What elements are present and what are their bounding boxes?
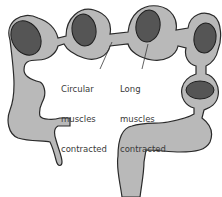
diagram-canvas: Circular muscles contracted Long muscles…	[0, 0, 222, 197]
label-line: contracted	[61, 144, 107, 154]
label-circular-muscles: Circular muscles contracted	[61, 64, 107, 174]
label-line: muscles	[61, 114, 107, 124]
label-line: Long	[120, 84, 166, 94]
label-long-muscles: Long muscles contracted	[120, 64, 166, 174]
label-line: muscles	[120, 114, 166, 124]
label-line: Circular	[61, 84, 107, 94]
label-line: contracted	[120, 144, 166, 154]
intestine-illustration	[0, 0, 222, 197]
bolus-5	[186, 81, 214, 99]
